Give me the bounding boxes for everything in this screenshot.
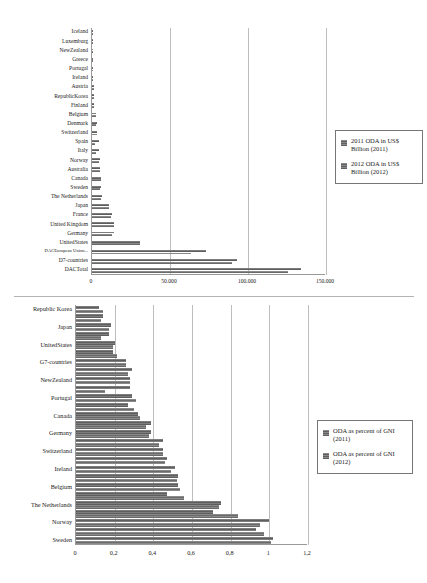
bar — [76, 341, 115, 345]
bar — [92, 262, 232, 264]
category-label: Switzerland — [0, 448, 72, 454]
bar — [76, 510, 213, 514]
bar — [76, 470, 171, 474]
bar — [92, 222, 114, 224]
category-label: Canada — [0, 413, 72, 419]
bar — [76, 505, 219, 509]
legend-swatch-icon — [341, 140, 347, 146]
bar — [92, 177, 101, 179]
category-label: Norway — [0, 158, 88, 164]
bar — [76, 457, 167, 461]
bar — [76, 394, 132, 398]
legend-label: 2012 ODA in US$ Billion (2012) — [351, 160, 416, 176]
bar — [76, 501, 221, 505]
gridline — [308, 305, 309, 545]
bar — [92, 30, 93, 32]
category-label: RepublicKorea — [0, 94, 88, 100]
bar — [76, 537, 273, 541]
bar — [92, 179, 101, 181]
category-label: United Kingdom — [0, 222, 88, 228]
category-label: France — [0, 212, 88, 218]
category-label: The Netherlands — [0, 194, 88, 200]
bar — [76, 519, 269, 523]
category-label: Greece — [0, 57, 88, 63]
category-label: Belgium — [0, 112, 88, 118]
bar — [92, 234, 112, 236]
bar — [76, 306, 99, 310]
bar — [92, 207, 109, 209]
bar — [92, 124, 96, 126]
bar — [76, 310, 103, 314]
bar — [76, 386, 130, 390]
bar — [92, 49, 93, 51]
x-tick-label: 100.000 — [217, 279, 277, 285]
bar — [92, 39, 93, 41]
category-label: Canada — [0, 176, 88, 182]
gridline — [326, 28, 327, 275]
chart-oda-absolute: IcelandLuxemburgNewZealandGreecePortugal… — [0, 0, 427, 290]
category-label: Ireland — [0, 466, 72, 472]
bar — [92, 195, 102, 197]
bar — [76, 416, 140, 420]
bar — [92, 115, 96, 117]
bar — [76, 421, 151, 425]
bar — [76, 483, 178, 487]
category-label: Japan — [0, 324, 72, 330]
bar — [76, 452, 163, 456]
category-label: Sweden — [0, 537, 72, 543]
bar — [76, 528, 256, 532]
category-label: Luxemburg — [0, 39, 88, 45]
bar — [92, 232, 114, 234]
bar — [76, 390, 105, 394]
category-label: Republic Korea — [0, 306, 72, 312]
gridline — [231, 305, 232, 545]
bar — [76, 541, 271, 545]
x-tick-label: 150.000 — [295, 279, 355, 285]
bar — [92, 253, 191, 255]
category-label: Spain — [0, 139, 88, 145]
bar — [92, 97, 94, 99]
legend-item[interactable]: 2011 ODA in US$ Billion (2011) — [341, 137, 416, 153]
bar — [92, 161, 99, 163]
legend-label: ODA as percent of GNI (2011) — [333, 427, 406, 443]
bar — [76, 403, 128, 407]
bar — [92, 243, 140, 245]
bar — [92, 225, 114, 227]
bar — [76, 488, 180, 492]
category-label: UnitedStates — [0, 240, 88, 246]
bar — [92, 42, 93, 44]
bar — [76, 439, 163, 443]
bar — [76, 523, 260, 527]
plot-area-top — [91, 28, 325, 275]
bar — [92, 106, 94, 108]
category-label: Germany — [0, 430, 72, 436]
bar — [76, 479, 177, 483]
x-axis-line — [92, 274, 325, 275]
bar — [76, 323, 111, 327]
bar — [76, 474, 178, 478]
category-label: Switzerland — [0, 130, 88, 136]
bar — [92, 268, 301, 270]
legend-item[interactable]: 2012 ODA in US$ Billion (2012) — [341, 160, 416, 176]
bar — [76, 496, 184, 500]
bar — [92, 250, 206, 252]
bar — [76, 408, 134, 412]
bar — [92, 241, 140, 243]
category-label: Austria — [0, 84, 88, 90]
bar — [76, 381, 130, 385]
bar — [92, 186, 101, 188]
bar — [76, 345, 113, 349]
bar — [76, 448, 163, 452]
bar — [92, 134, 97, 136]
category-label: Ireland — [0, 75, 88, 81]
legend-item[interactable]: ODA as percent of GNI (2011) — [323, 427, 406, 443]
bar — [76, 350, 113, 354]
bar — [76, 412, 138, 416]
bar — [92, 152, 96, 154]
legend-swatch-icon — [341, 163, 347, 169]
section-divider — [14, 296, 414, 297]
bar — [76, 466, 175, 470]
bar — [76, 514, 238, 518]
legend-item[interactable]: ODA as percent of GNI (2012) — [323, 450, 406, 466]
bar — [76, 319, 101, 323]
